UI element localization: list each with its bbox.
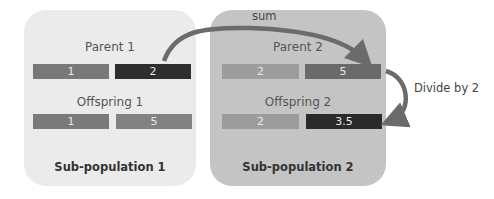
sum-arrow-icon — [164, 28, 363, 61]
arrows-layer — [0, 0, 494, 199]
divide-arrow-icon — [386, 71, 406, 120]
sum-label: sum — [252, 9, 276, 23]
divide-by-2-label: Divide by 2 — [414, 81, 479, 95]
